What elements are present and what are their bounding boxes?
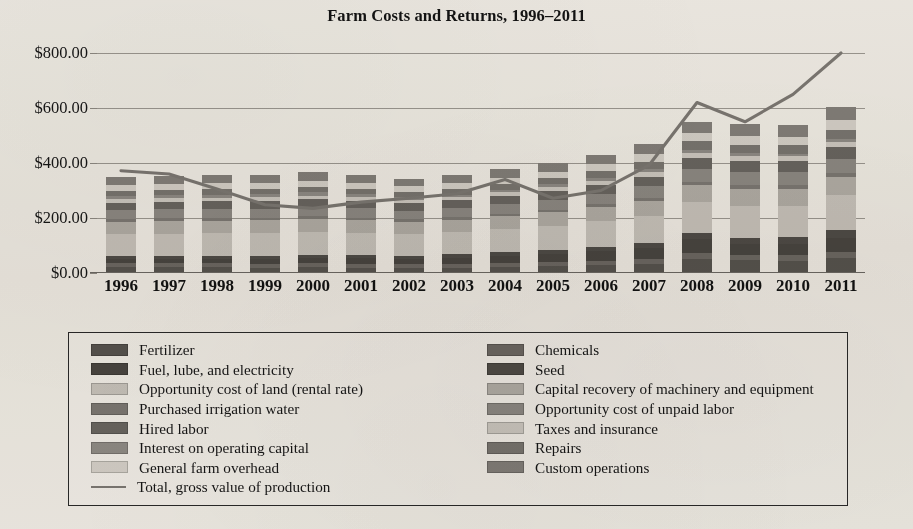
legend-color-swatch-icon	[91, 383, 128, 395]
x-axis-label-2000: 2000	[289, 276, 337, 296]
legend-item-label: Capital recovery of machinery and equipm…	[535, 379, 814, 398]
legend-item[interactable]: Repairs	[487, 438, 839, 458]
x-axis-tick-labels: 1996199719981999200020012002200320042005…	[97, 276, 865, 302]
x-axis-baseline	[90, 272, 865, 273]
y-axis-tick-labels: $0.00$200.00$400.00$600.00$800.00	[0, 0, 96, 300]
legend-item-label: Hired labor	[139, 419, 209, 438]
legend-item[interactable]: Opportunity cost of land (rental rate)	[91, 379, 486, 399]
legend-color-swatch-icon	[91, 344, 128, 356]
legend: FertilizerFuel, lube, and electricityOpp…	[68, 332, 848, 506]
legend-item[interactable]: Opportunity cost of unpaid labor	[487, 399, 839, 419]
y-axis-tick-label: $600.00	[34, 100, 88, 116]
legend-item[interactable]: Chemicals	[487, 340, 839, 360]
y-axis-tickmark	[90, 163, 97, 164]
x-axis-label-2005: 2005	[529, 276, 577, 296]
y-axis-tickmark	[90, 108, 97, 109]
total-gross-value-line-series	[97, 53, 865, 273]
legend-color-swatch-icon	[91, 461, 128, 473]
legend-item-label: Purchased irrigation water	[139, 399, 299, 418]
legend-color-swatch-icon	[91, 363, 128, 375]
plot-wrapper: $0.00$200.00$400.00$600.00$800.00 199619…	[0, 0, 913, 300]
x-axis-label-2007: 2007	[625, 276, 673, 296]
x-axis-label-2008: 2008	[673, 276, 721, 296]
legend-item[interactable]: Custom operations	[487, 458, 839, 478]
y-axis-tickmark	[90, 218, 97, 219]
x-axis-label-2009: 2009	[721, 276, 769, 296]
legend-item[interactable]: Total, gross value of production	[91, 477, 486, 497]
x-axis-label-2004: 2004	[481, 276, 529, 296]
legend-color-swatch-icon	[487, 383, 524, 395]
legend-item-label: Opportunity cost of unpaid labor	[535, 399, 734, 418]
legend-color-swatch-icon	[487, 363, 524, 375]
legend-line-swatch-icon	[91, 486, 126, 488]
legend-item[interactable]: General farm overhead	[91, 458, 486, 478]
legend-color-swatch-icon	[487, 461, 524, 473]
x-axis-label-2006: 2006	[577, 276, 625, 296]
y-axis-tickmark	[90, 53, 97, 54]
line-path	[121, 53, 841, 208]
legend-item-label: Fuel, lube, and electricity	[139, 360, 294, 379]
legend-item[interactable]: Seed	[487, 360, 839, 380]
legend-color-swatch-icon	[487, 344, 524, 356]
legend-item-label: Chemicals	[535, 340, 599, 359]
x-axis-label-1999: 1999	[241, 276, 289, 296]
legend-item[interactable]: Hired labor	[91, 418, 486, 438]
legend-item-label: Fertilizer	[139, 340, 195, 359]
legend-item-label: Taxes and insurance	[535, 419, 658, 438]
x-axis-label-1996: 1996	[97, 276, 145, 296]
legend-column-right: ChemicalsSeedCapital recovery of machine…	[487, 340, 839, 477]
x-axis-label-2010: 2010	[769, 276, 817, 296]
legend-color-swatch-icon	[487, 422, 524, 434]
x-axis-label-1997: 1997	[145, 276, 193, 296]
legend-color-swatch-icon	[487, 403, 524, 415]
legend-color-swatch-icon	[91, 422, 128, 434]
legend-item[interactable]: Fertilizer	[91, 340, 486, 360]
x-axis-label-2001: 2001	[337, 276, 385, 296]
legend-item-label: Repairs	[535, 438, 581, 457]
y-axis-tick-label: $0.00	[51, 265, 88, 281]
legend-item-label: Seed	[535, 360, 565, 379]
legend-column-left: FertilizerFuel, lube, and electricityOpp…	[91, 340, 486, 497]
legend-item-label: Total, gross value of production	[137, 477, 330, 496]
x-axis-label-2002: 2002	[385, 276, 433, 296]
legend-color-swatch-icon	[91, 442, 128, 454]
legend-item[interactable]: Taxes and insurance	[487, 418, 839, 438]
legend-color-swatch-icon	[487, 442, 524, 454]
legend-item[interactable]: Fuel, lube, and electricity	[91, 360, 486, 380]
y-axis-tick-label: $200.00	[34, 210, 88, 226]
x-axis-label-2003: 2003	[433, 276, 481, 296]
legend-color-swatch-icon	[91, 403, 128, 415]
legend-item-label: General farm overhead	[139, 458, 279, 477]
y-axis-tick-label: $800.00	[34, 45, 88, 61]
legend-item-label: Interest on operating capital	[139, 438, 309, 457]
x-axis-label-2011: 2011	[817, 276, 865, 296]
y-axis-tickmark	[90, 273, 97, 274]
legend-item-label: Custom operations	[535, 458, 649, 477]
legend-item[interactable]: Purchased irrigation water	[91, 399, 486, 419]
x-axis-label-1998: 1998	[193, 276, 241, 296]
y-axis-tick-label: $400.00	[34, 155, 88, 171]
plot-area	[97, 53, 865, 273]
legend-item[interactable]: Capital recovery of machinery and equipm…	[487, 379, 839, 399]
legend-item[interactable]: Interest on operating capital	[91, 438, 486, 458]
legend-item-label: Opportunity cost of land (rental rate)	[139, 379, 363, 398]
